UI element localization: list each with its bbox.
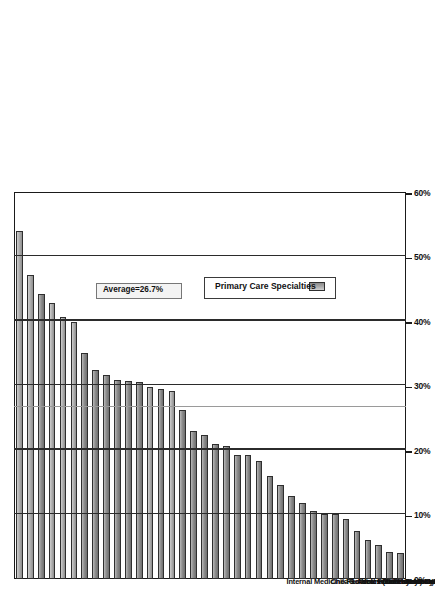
bar-slot bbox=[212, 192, 219, 579]
gridline bbox=[14, 255, 406, 257]
bar bbox=[375, 545, 382, 579]
axis-tick-label: 10% bbox=[414, 511, 430, 521]
bar bbox=[38, 294, 45, 579]
bar-slot bbox=[299, 192, 306, 579]
bar-slot bbox=[267, 192, 274, 579]
axis-tick-label: 20% bbox=[414, 446, 430, 456]
average-reference-line bbox=[14, 406, 406, 407]
bar-slot bbox=[354, 192, 361, 579]
bar-slot bbox=[92, 192, 99, 579]
bar bbox=[245, 455, 252, 579]
bar bbox=[169, 391, 176, 579]
bar-slot bbox=[288, 192, 295, 579]
average-annotation-label: Average=26.7% bbox=[103, 285, 163, 294]
bar bbox=[354, 531, 361, 579]
bar bbox=[234, 455, 241, 579]
bar-slot bbox=[386, 192, 393, 579]
bar bbox=[288, 496, 295, 579]
bar-slot bbox=[158, 192, 165, 579]
bar bbox=[147, 387, 154, 579]
bar-slot bbox=[60, 192, 67, 579]
bar-slot bbox=[147, 192, 154, 579]
bars-layer bbox=[14, 192, 406, 579]
bar bbox=[212, 444, 219, 579]
bar bbox=[114, 380, 121, 579]
bar bbox=[201, 435, 208, 579]
axis-tick-mark bbox=[406, 323, 412, 325]
axis-tick-label: 40% bbox=[414, 317, 430, 327]
bar bbox=[81, 353, 88, 579]
bar-slot bbox=[179, 192, 186, 579]
bar-slot bbox=[201, 192, 208, 579]
bar-slot bbox=[332, 192, 339, 579]
bar-slot bbox=[27, 192, 34, 579]
bar bbox=[343, 519, 350, 579]
bar-slot bbox=[114, 192, 121, 579]
bar-slot bbox=[245, 192, 252, 579]
bar-slot bbox=[103, 192, 110, 579]
bar-slot bbox=[71, 192, 78, 579]
bar bbox=[190, 431, 197, 579]
bar bbox=[125, 381, 132, 579]
legend-label: Primary Care Specialties bbox=[215, 281, 316, 291]
bar-slot bbox=[136, 192, 143, 579]
bar-slot bbox=[321, 192, 328, 579]
gridline bbox=[14, 384, 406, 386]
axis-tick-mark bbox=[406, 516, 412, 518]
bar bbox=[277, 485, 284, 579]
bar-slot bbox=[343, 192, 350, 579]
axis-tick-mark bbox=[406, 387, 412, 389]
bar bbox=[332, 515, 339, 580]
bar-slot bbox=[81, 192, 88, 579]
rotated-chart-canvas: 0%10%20%30%40%50%60% General PediatricsI… bbox=[0, 0, 435, 599]
bar-slot bbox=[190, 192, 197, 579]
axis-tick-mark bbox=[406, 258, 412, 260]
bar-slot bbox=[277, 192, 284, 579]
bar-slot bbox=[49, 192, 56, 579]
bar-slot bbox=[169, 192, 176, 579]
legend-box: Primary Care Specialties bbox=[204, 277, 336, 299]
gridline bbox=[14, 513, 406, 515]
bar bbox=[71, 322, 78, 579]
bar-slot bbox=[223, 192, 230, 579]
bar-slot bbox=[125, 192, 132, 579]
bar bbox=[365, 540, 372, 579]
axis-tick-label: 50% bbox=[414, 253, 430, 263]
bar-slot bbox=[375, 192, 382, 579]
gridline bbox=[14, 449, 406, 451]
bar bbox=[310, 511, 317, 579]
bar-slot bbox=[16, 192, 23, 579]
bar-slot bbox=[38, 192, 45, 579]
bar bbox=[321, 514, 328, 579]
axis-tick-mark bbox=[406, 452, 412, 454]
axis-tick-mark bbox=[406, 194, 412, 196]
bar-slot bbox=[310, 192, 317, 579]
bar bbox=[49, 303, 56, 579]
bar-chart-figure: 0%10%20%30%40%50%60% General PediatricsI… bbox=[0, 0, 435, 599]
bar-slot bbox=[234, 192, 241, 579]
gridline bbox=[14, 320, 406, 322]
axis-tick-label: 30% bbox=[414, 382, 430, 392]
bar bbox=[158, 389, 165, 579]
bar-slot bbox=[256, 192, 263, 579]
bar-slot bbox=[397, 192, 404, 579]
bar bbox=[136, 382, 143, 579]
bar bbox=[256, 461, 263, 579]
category-label: Physical Medicine & Rehab. bbox=[405, 577, 435, 586]
axis-tick-label: 60% bbox=[414, 188, 430, 198]
bar bbox=[267, 476, 274, 579]
bar bbox=[179, 410, 186, 579]
bar bbox=[92, 370, 99, 579]
plot-area bbox=[14, 192, 406, 579]
bar bbox=[397, 553, 404, 579]
bar bbox=[386, 552, 393, 579]
bar-slot bbox=[365, 192, 372, 579]
average-annotation-box: Average=26.7% bbox=[96, 283, 182, 299]
